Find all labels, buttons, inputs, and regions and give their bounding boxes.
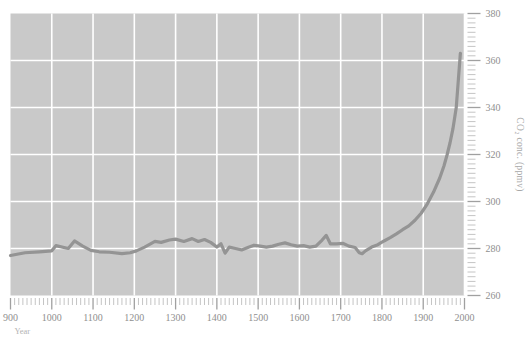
x-tick-label: 1400 — [207, 312, 227, 323]
x-tick-label: 1500 — [248, 312, 268, 323]
x-axis-title: Year — [15, 326, 31, 336]
x-tick-label: 1000 — [42, 312, 62, 323]
y-tick-label: 340 — [486, 102, 501, 113]
y-tick-label: 320 — [486, 149, 501, 160]
y-tick-label: 280 — [486, 243, 501, 254]
x-tick-label: 1900 — [413, 312, 433, 323]
x-tick-label: 1100 — [83, 312, 103, 323]
x-tick-label: 1600 — [289, 312, 309, 323]
x-tick-label: 1800 — [372, 312, 392, 323]
y-axis-title: CO₂ conc. (ppmv) — [514, 117, 525, 191]
x-tick-label: 900 — [3, 312, 18, 323]
chart-svg: 9001000110012001300140015001600170018001… — [0, 0, 527, 345]
x-axis-tick-labels: 9001000110012001300140015001600170018001… — [3, 312, 475, 323]
co2-concentration-chart: 9001000110012001300140015001600170018001… — [0, 0, 527, 345]
y-tick-label: 360 — [486, 55, 501, 66]
x-tick-label: 1300 — [166, 312, 186, 323]
y-tick-label: 260 — [486, 290, 501, 301]
x-tick-label: 2000 — [455, 312, 475, 323]
x-tick-label: 1200 — [124, 312, 144, 323]
y-tick-label: 380 — [486, 8, 501, 19]
x-tick-label: 1700 — [331, 312, 351, 323]
y-tick-label: 300 — [486, 196, 501, 207]
y-axis-ticks — [468, 14, 481, 296]
y-axis-tick-labels: 260280300320340360380 — [486, 8, 501, 301]
x-axis-ticks — [11, 298, 465, 310]
